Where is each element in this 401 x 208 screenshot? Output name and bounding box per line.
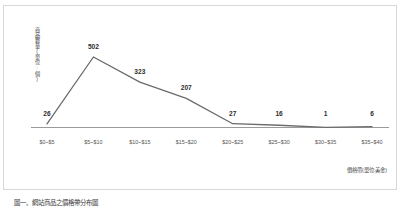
x-axis-tick-label: $10~$15 <box>129 139 150 145</box>
data-value-label: 207 <box>181 84 192 91</box>
x-axis-title: 價格帶(單位:美金) <box>347 166 387 174</box>
data-value-label: 16 <box>275 110 282 117</box>
x-axis-tick-label: $35~$40 <box>361 139 382 145</box>
data-series-line <box>47 57 372 127</box>
data-value-label: 323 <box>134 68 145 75</box>
figure-container: 商品數量(單位:個) 26502323207271616 $0~$5$5~$10… <box>0 0 401 208</box>
x-axis-tick-label: $20~$25 <box>222 139 243 145</box>
figure-caption: 圖一、網站商品之價格帶分布圖 <box>14 198 98 207</box>
x-axis-tick-label: $15~$20 <box>176 139 197 145</box>
x-axis-tick-label: $5~$10 <box>84 139 102 145</box>
x-axis-tick-label: $0~$5 <box>39 139 54 145</box>
data-value-label: 502 <box>88 43 99 50</box>
data-value-label: 1 <box>324 110 328 117</box>
x-axis-tick-label: $25~$30 <box>269 139 290 145</box>
data-value-label: 27 <box>229 110 236 117</box>
data-value-label: 26 <box>43 110 50 117</box>
line-chart-plot <box>0 0 401 208</box>
data-value-label: 6 <box>370 110 374 117</box>
x-axis-tick-label: $30~$35 <box>315 139 336 145</box>
